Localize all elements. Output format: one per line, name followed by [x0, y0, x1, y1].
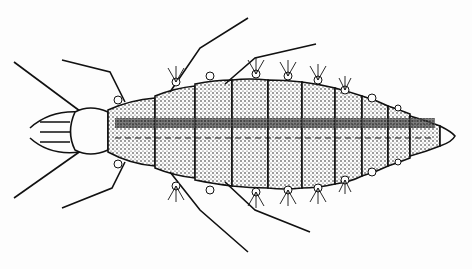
illustration-canvas [0, 0, 472, 269]
head [40, 108, 108, 154]
body-segments [108, 79, 455, 189]
larva-illustration [0, 0, 472, 269]
